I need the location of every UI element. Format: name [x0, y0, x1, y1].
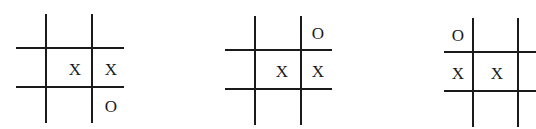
x-mark: X	[491, 65, 503, 82]
grid-horizontal-line	[444, 90, 536, 92]
x-mark: X	[452, 65, 464, 82]
grid-vertical-line	[472, 18, 474, 127]
grid-vertical-line	[517, 18, 519, 127]
o-mark: O	[452, 27, 464, 44]
board-3: OXX	[0, 0, 536, 129]
grid-horizontal-line	[444, 51, 536, 53]
